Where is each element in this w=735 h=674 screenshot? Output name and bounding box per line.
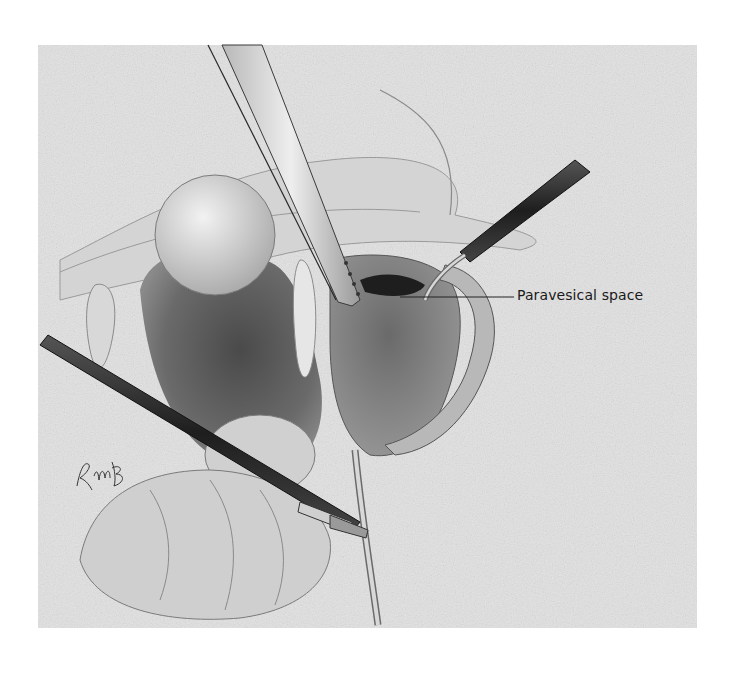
uterus (155, 175, 275, 295)
label-paravesical-space: Paravesical space (517, 287, 643, 303)
surgical-illustration (0, 0, 735, 674)
